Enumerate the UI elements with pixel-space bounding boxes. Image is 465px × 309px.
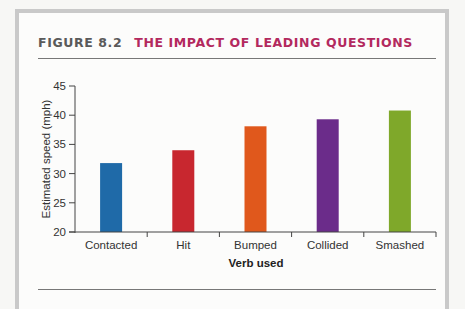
- y-axis-label: Estimated speed (mph): [40, 99, 52, 218]
- bars: [100, 111, 411, 232]
- y-tick-label: 30: [53, 168, 66, 180]
- x-tick-label: Collided: [307, 239, 349, 251]
- bar-bumped: [245, 126, 267, 232]
- bar-collided: [317, 119, 339, 232]
- x-axis-label: Verb used: [229, 257, 284, 269]
- bar-contacted: [100, 163, 122, 232]
- y-tick-label: 35: [53, 138, 66, 150]
- bar-smashed: [389, 111, 411, 232]
- y-axis: 202530354045: [53, 80, 75, 238]
- x-tick-label: Hit: [176, 239, 191, 251]
- y-tick-label: 40: [53, 109, 66, 121]
- y-tick-label: 20: [53, 226, 66, 238]
- y-tick-label: 25: [53, 197, 66, 209]
- x-tick-label: Smashed: [376, 239, 425, 251]
- y-tick-label: 45: [53, 80, 66, 92]
- x-tick-label: Contacted: [85, 239, 137, 251]
- bar-hit: [172, 150, 194, 232]
- x-axis: ContactedHitBumpedCollidedSmashed: [69, 232, 436, 251]
- x-tick-label: Bumped: [234, 239, 277, 251]
